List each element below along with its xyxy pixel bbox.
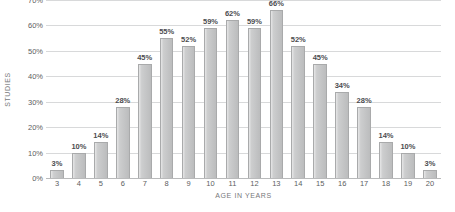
bar-value-label: 10% xyxy=(68,142,90,151)
bar-slot: 28% xyxy=(112,0,134,178)
y-axis-tick-label: 60% xyxy=(13,21,43,30)
bar-slot: 62% xyxy=(222,0,244,178)
bar xyxy=(160,38,174,178)
bar-value-label: 10% xyxy=(397,142,419,151)
bar xyxy=(204,28,218,178)
bar xyxy=(423,170,437,178)
x-axis-tick-label: 20 xyxy=(419,179,441,193)
x-axis-tick-label: 4 xyxy=(68,179,90,193)
bar-slot: 10% xyxy=(68,0,90,178)
x-axis-tick-label: 7 xyxy=(134,179,156,193)
bar xyxy=(72,153,86,178)
bar-slot: 52% xyxy=(178,0,200,178)
bar-value-label: 52% xyxy=(287,35,309,44)
bar-value-label: 59% xyxy=(200,17,222,26)
bar xyxy=(138,64,152,178)
y-axis-tick-label: 10% xyxy=(13,148,43,157)
bar-slot: 3% xyxy=(46,0,68,178)
bar xyxy=(401,153,415,178)
x-axis-tick-label: 8 xyxy=(156,179,178,193)
bar-slot: 14% xyxy=(375,0,397,178)
y-axis-tick-label: 20% xyxy=(13,123,43,132)
bar-slot: 10% xyxy=(397,0,419,178)
x-axis-tick-label: 17 xyxy=(353,179,375,193)
y-axis-title: STUDIES xyxy=(0,0,14,178)
bar-value-label: 14% xyxy=(375,131,397,140)
bar-slot: 34% xyxy=(331,0,353,178)
x-axis-tick-label: 12 xyxy=(243,179,265,193)
x-axis-tick-label: 5 xyxy=(90,179,112,193)
x-axis-tick-label: 19 xyxy=(397,179,419,193)
x-axis-tick-label: 11 xyxy=(222,179,244,193)
bar-series: 3%10%14%28%45%55%52%59%62%59%66%52%45%34… xyxy=(46,0,441,178)
y-axis-tick-label: 30% xyxy=(13,97,43,106)
x-axis-tick-label: 18 xyxy=(375,179,397,193)
y-axis-tick-label: 70% xyxy=(13,0,43,5)
x-axis-tick-label: 10 xyxy=(200,179,222,193)
bar-slot: 52% xyxy=(287,0,309,178)
bar xyxy=(379,142,393,178)
x-axis-title: AGE IN YEARS xyxy=(46,192,441,199)
bar-value-label: 45% xyxy=(134,53,156,62)
x-axis-tick-label: 15 xyxy=(309,179,331,193)
x-axis-tick-label: 16 xyxy=(331,179,353,193)
bar-slot: 3% xyxy=(419,0,441,178)
bar xyxy=(313,64,327,178)
bar xyxy=(270,10,284,178)
bar-value-label: 52% xyxy=(178,35,200,44)
x-axis-tick-label: 13 xyxy=(265,179,287,193)
bar xyxy=(291,46,305,178)
bar xyxy=(357,107,371,178)
plot-area: 3%10%14%28%45%55%52%59%62%59%66%52%45%34… xyxy=(46,0,441,178)
y-axis-tick-label: 40% xyxy=(13,72,43,81)
bar-value-label: 28% xyxy=(112,96,134,105)
bar xyxy=(94,142,108,178)
bar-value-label: 28% xyxy=(353,96,375,105)
bar-slot: 14% xyxy=(90,0,112,178)
bar-slot: 28% xyxy=(353,0,375,178)
bar xyxy=(226,20,240,178)
bar-value-label: 45% xyxy=(309,53,331,62)
x-axis-tick-label: 9 xyxy=(178,179,200,193)
bar-slot: 45% xyxy=(309,0,331,178)
bar xyxy=(50,170,64,178)
bar xyxy=(335,92,349,178)
bar-slot: 59% xyxy=(243,0,265,178)
x-axis-tick-label: 6 xyxy=(112,179,134,193)
bar xyxy=(116,107,130,178)
bar-value-label: 59% xyxy=(243,17,265,26)
bar-slot: 59% xyxy=(200,0,222,178)
bar-slot: 66% xyxy=(265,0,287,178)
x-axis-tick-label: 3 xyxy=(46,179,68,193)
bar-value-label: 55% xyxy=(156,27,178,36)
bar xyxy=(182,46,196,178)
bar-value-label: 3% xyxy=(46,159,68,168)
bar xyxy=(248,28,262,178)
y-axis-tick-label: 50% xyxy=(13,46,43,55)
bar-slot: 45% xyxy=(134,0,156,178)
bar-value-label: 3% xyxy=(419,159,441,168)
x-axis-tick-label: 14 xyxy=(287,179,309,193)
bar-chart: STUDIES 0%10%20%30%40%50%60%70% 3%10%14%… xyxy=(0,0,455,212)
y-axis-tick-labels: 0%10%20%30%40%50%60%70% xyxy=(14,0,46,178)
y-axis-title-label: STUDIES xyxy=(4,72,11,107)
y-axis-tick-label: 0% xyxy=(13,174,43,183)
bar-value-label: 66% xyxy=(265,0,287,8)
bar-value-label: 62% xyxy=(222,9,244,18)
bar-value-label: 14% xyxy=(90,131,112,140)
bar-slot: 55% xyxy=(156,0,178,178)
bar-value-label: 34% xyxy=(331,81,353,90)
x-axis-tick-labels: 34567891011121314151617181920 xyxy=(46,179,441,193)
